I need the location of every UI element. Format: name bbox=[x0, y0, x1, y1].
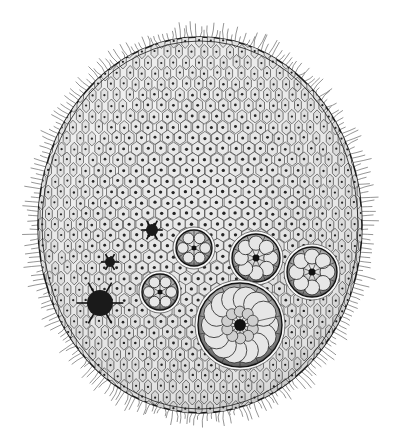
flagellum bbox=[361, 243, 374, 244]
flagellum bbox=[94, 68, 102, 75]
flagellum bbox=[362, 234, 373, 235]
flagellum bbox=[342, 316, 350, 320]
flagellum bbox=[200, 26, 202, 37]
flagellum bbox=[279, 55, 285, 61]
flagellum bbox=[326, 343, 331, 347]
flagellum bbox=[151, 38, 154, 45]
flagellum bbox=[189, 413, 192, 423]
flagellum bbox=[216, 30, 218, 38]
flagellum bbox=[135, 44, 139, 51]
flagellum bbox=[207, 413, 208, 421]
flagellum bbox=[301, 372, 315, 385]
flagellum bbox=[246, 40, 250, 45]
flagellum bbox=[126, 43, 132, 55]
flagellum bbox=[357, 177, 366, 180]
flagellum bbox=[41, 304, 53, 308]
flagellum bbox=[89, 74, 96, 82]
flagellum bbox=[45, 320, 61, 326]
flagellum bbox=[353, 287, 364, 290]
eight-cell-colony bbox=[173, 227, 215, 269]
flagellum bbox=[345, 136, 361, 142]
flagellum bbox=[30, 229, 38, 230]
flagellum bbox=[197, 413, 200, 420]
flagellum bbox=[60, 332, 66, 337]
flagellum bbox=[301, 68, 309, 79]
flagellum bbox=[361, 248, 372, 250]
flagellum bbox=[38, 296, 50, 298]
flagellum bbox=[286, 385, 291, 392]
flagellum bbox=[47, 308, 55, 310]
flagellum bbox=[63, 336, 69, 341]
flagellum bbox=[180, 412, 181, 424]
flagellum bbox=[360, 252, 372, 253]
flagellum bbox=[340, 320, 350, 325]
flagellum bbox=[113, 49, 121, 61]
flagellum bbox=[110, 60, 115, 66]
cell-nucleus bbox=[110, 386, 112, 388]
flagellum bbox=[165, 409, 166, 417]
flagellum bbox=[28, 215, 38, 216]
flagellum bbox=[31, 168, 45, 171]
flagellum bbox=[187, 413, 188, 425]
flagellum bbox=[40, 155, 49, 158]
flagellum bbox=[268, 40, 277, 54]
flagellum bbox=[142, 37, 146, 48]
flagellum bbox=[24, 266, 42, 268]
flagellum bbox=[65, 339, 71, 342]
flagellum bbox=[72, 350, 79, 355]
flagellum bbox=[162, 34, 165, 42]
flagellum bbox=[44, 142, 53, 145]
flagellum bbox=[69, 93, 79, 101]
flagellum bbox=[321, 350, 334, 360]
flagellum bbox=[105, 382, 112, 394]
flagellum bbox=[254, 33, 258, 48]
flagellum bbox=[58, 328, 64, 334]
flagellum bbox=[31, 248, 39, 249]
flagellum bbox=[49, 129, 58, 134]
cell-nucleus bbox=[266, 50, 268, 52]
colony-center bbox=[253, 255, 260, 262]
flagellum bbox=[50, 324, 62, 330]
flagellum bbox=[361, 200, 375, 202]
flagellum bbox=[305, 76, 313, 81]
flagellum bbox=[25, 201, 39, 202]
colony-cell bbox=[177, 243, 188, 254]
flagellum bbox=[275, 50, 282, 58]
flagellum bbox=[110, 385, 115, 396]
flagellum bbox=[207, 26, 208, 38]
flagellum bbox=[36, 174, 44, 176]
colony-cell bbox=[160, 296, 171, 307]
flagellum bbox=[108, 51, 118, 63]
colony-cell bbox=[160, 277, 171, 288]
flagellum bbox=[37, 287, 48, 291]
colony-cell bbox=[149, 296, 160, 307]
flagellum bbox=[87, 79, 93, 84]
flagellum bbox=[310, 363, 315, 369]
flagellum bbox=[354, 164, 361, 167]
flagellum bbox=[321, 91, 330, 101]
flagellum bbox=[24, 243, 38, 246]
flagellum bbox=[184, 412, 185, 419]
illustration bbox=[0, 0, 401, 440]
flagellum bbox=[31, 274, 44, 275]
flagellum bbox=[307, 366, 316, 376]
flagellum bbox=[275, 392, 277, 397]
flagellum bbox=[154, 36, 158, 44]
flagellum bbox=[31, 182, 42, 184]
flagellum bbox=[99, 380, 108, 388]
flagellum bbox=[360, 257, 371, 258]
flagellum bbox=[172, 31, 173, 40]
flagellum bbox=[336, 328, 347, 334]
colony-center bbox=[234, 319, 246, 331]
flagellum bbox=[295, 377, 305, 389]
colony-center bbox=[192, 246, 197, 251]
flagellum bbox=[235, 27, 238, 42]
flagellum bbox=[216, 412, 217, 421]
flagellum bbox=[190, 21, 192, 37]
flagellum bbox=[33, 279, 45, 281]
flagellum bbox=[56, 122, 63, 126]
flagellum bbox=[40, 146, 52, 150]
flagellum bbox=[349, 147, 355, 150]
colony-cell bbox=[166, 287, 177, 298]
flagellum bbox=[265, 397, 272, 408]
